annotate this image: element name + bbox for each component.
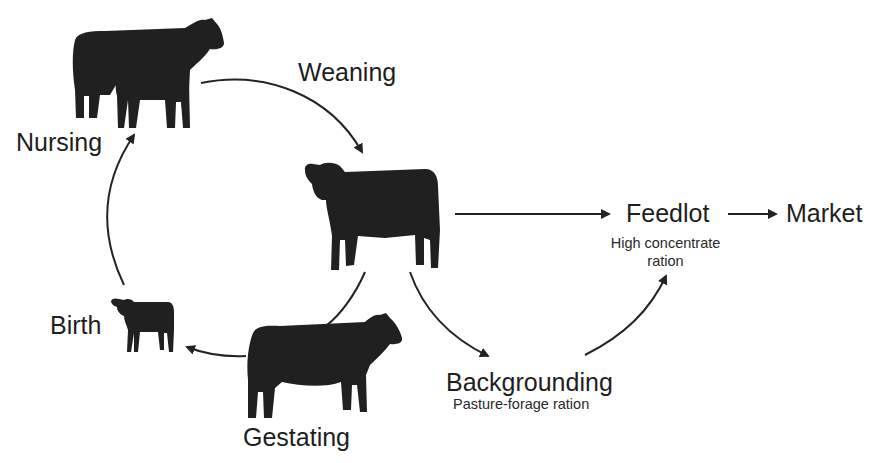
backgrounding-sublabel: Pasture-forage ration — [453, 397, 589, 412]
birth-to-nursing-arrow — [107, 135, 134, 285]
nursing-label: Nursing — [16, 130, 102, 155]
gestating-label: Gestating — [243, 425, 350, 450]
newborn-calf-icon — [111, 298, 174, 352]
nursing-cow-icon — [73, 18, 224, 128]
feedlot-label: Feedlot — [626, 201, 709, 226]
diagram-graphics — [0, 0, 884, 463]
backgrounding-to-feedlot-arrow — [585, 276, 666, 355]
weaned-calf-icon — [305, 163, 440, 270]
feedlot-sublabel-line2: ration — [602, 254, 729, 269]
cattle-cycle-diagram: Nursing Weaning Feedlot High concentrate… — [0, 0, 884, 463]
feedlot-sublabel-line1: High concentrate — [602, 236, 729, 251]
market-label: Market — [786, 201, 862, 226]
calf-to-backgrounding-arrow — [410, 272, 488, 356]
calf-to-gestating-arrow — [327, 272, 365, 325]
gestating-cow-icon — [247, 313, 402, 418]
weaning-arrow — [201, 80, 362, 152]
birth-label: Birth — [50, 313, 101, 338]
gestating-to-birth-arrow — [187, 347, 246, 356]
backgrounding-label: Backgrounding — [446, 370, 613, 395]
weaning-label: Weaning — [298, 60, 396, 85]
feedlot-sublabel: High concentrate ration — [602, 236, 729, 268]
